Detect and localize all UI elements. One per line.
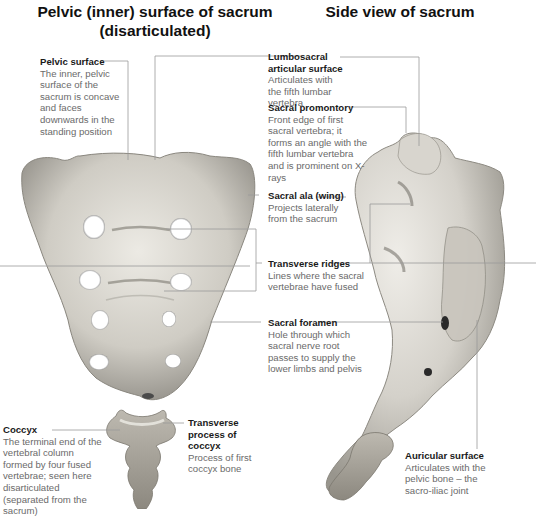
foramen-3-right [162,311,176,327]
label-sacral-promontory: Sacral promontory Front edge of first sa… [268,102,368,183]
label-lumbosacral-articular-surface: Lumbosacral articular surface Articulate… [268,51,348,109]
label-desc: The inner, pelvic surface of the sacrum … [40,68,128,138]
label-title: Coccyx [3,424,103,436]
label-desc: Hole through which sacral nerve root pas… [268,329,364,375]
label-title: Auricular surface [405,450,497,462]
label-pelvic-surface: Pelvic surface The inner, pelvic surface… [40,56,128,137]
label-desc: Articulates with the pelvic bone – the s… [405,462,497,497]
label-title: Sacral promontory [268,102,368,114]
title-pelvic-surface: Pelvic (inner) surface of sacrum (disart… [30,2,280,40]
label-title: Sacral foramen [268,317,364,329]
label-title: Transverse ridges [268,258,368,270]
foramen-3-left [91,310,109,330]
foramen-2-right [170,273,192,291]
label-sacral-foramen: Sacral foramen Hole through which sacral… [268,317,364,375]
label-desc: Front edge of first sacral vertebra; it … [268,114,368,184]
label-coccyx: Coccyx The terminal end of the vertebral… [3,424,103,517]
label-transverse-process-of-coccyx: Transverse process of coccyx Process of … [188,417,252,475]
label-desc: Lines where the sacral vertebrae have fu… [268,270,368,293]
title-side-view: Side view of sacrum [300,2,500,21]
label-title: Sacral ala (wing) [268,190,348,202]
label-desc: Projects laterally from the sacrum [268,202,348,225]
foramen-4-left [89,354,109,370]
label-transverse-ridges: Transverse ridges Lines where the sacral… [268,258,368,293]
label-sacral-ala: Sacral ala (wing) Projects laterally fro… [268,190,348,225]
coccyx-image [107,410,176,509]
sacrum-front-image [22,152,255,399]
label-desc: Process of first coccyx bone [188,452,252,475]
foramen-2-left [79,270,101,290]
foramen-1-left [83,215,105,239]
label-title: Pelvic surface [40,56,128,68]
label-title: Transverse process of coccyx [188,417,252,452]
label-title: Lumbosacral articular surface [268,51,348,74]
label-auricular-surface: Auricular surface Articulates with the p… [405,450,497,496]
label-desc: The terminal end of the vertebral column… [3,436,103,517]
foramen-4-right [165,354,181,368]
